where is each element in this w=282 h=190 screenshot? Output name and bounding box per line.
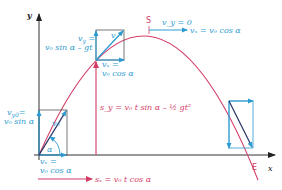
y-axis-label: y (26, 10, 33, 20)
sx-formula: sₓ = v₀ t cos α (95, 175, 152, 184)
vx-mid-label: vₓ = (102, 60, 119, 69)
apex-label: S (146, 16, 151, 25)
vy-apex-label: v_y = 0 (162, 18, 192, 27)
projectile-diagram: y x α v₀ vy0= v₀ sin α vₓ = v₀ cos α v v… (0, 0, 282, 190)
sy-formula: s_y = v₀ t sin α – ½ gt² (100, 103, 191, 112)
vy0-equals: = (19, 108, 26, 117)
vx-mid-formula: v₀ cos α (102, 69, 134, 78)
end-label: E (252, 163, 257, 172)
v-mid-arrow (96, 31, 123, 60)
vx-start-formula: v₀ cos α (40, 166, 72, 175)
mid-velocity-box (96, 30, 124, 60)
vy-mid-equals: = (86, 34, 95, 43)
vx-apex-label: vₓ = v₀ cos α (190, 26, 241, 35)
angle-label: α (47, 145, 53, 154)
vy0-formula: v₀ sin α (4, 117, 35, 126)
v0-arrow (39, 111, 66, 155)
v-mid-label: v (111, 31, 116, 40)
v0-start-label: v₀ (52, 119, 61, 128)
start-velocity-box (39, 110, 67, 155)
x-axis-label: x (268, 164, 273, 173)
vx-start-label: vₓ = (40, 157, 57, 166)
vy-mid-formula: v₀ sin α – gt (45, 43, 93, 52)
